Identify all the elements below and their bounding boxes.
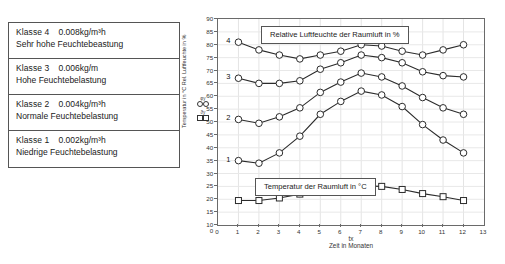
circle-marker [358, 70, 365, 77]
circle-marker [440, 137, 447, 144]
circle-marker [276, 80, 283, 87]
x-tick-mark [299, 224, 300, 227]
humidity-annotation-box: Relative Luftfeuchte der Raumluft in % [261, 26, 409, 44]
class-heading: Klasse 20.004kg/m³h [16, 99, 173, 110]
y-tick-mark [214, 147, 217, 148]
circle-marker [276, 150, 283, 157]
x-tick-label: 9 [394, 228, 408, 235]
x-tick-label: 5 [312, 228, 326, 235]
class-heading: Klasse 30.006kg/m [16, 63, 173, 74]
circle-marker [460, 74, 467, 81]
x-tick-mark [258, 224, 259, 227]
square-marker [235, 198, 241, 204]
circle-marker [337, 59, 344, 66]
square-marker [256, 198, 262, 204]
circle-marker [317, 111, 324, 118]
temperature-annotation-box: Temperatur der Raumluft in °C [255, 178, 376, 196]
series-tag-2: 2 [226, 113, 230, 122]
series-tag-3: 3 [226, 72, 230, 81]
square-marker [420, 191, 426, 197]
y-tick-label: 80 [191, 40, 213, 47]
class-description: Hohe Feuchtebelastung [16, 75, 173, 86]
circle-marker [317, 52, 324, 59]
y-tick-label: 25 [191, 182, 213, 189]
x-tick-mark [319, 224, 320, 227]
circle-marker [378, 54, 385, 61]
y-tick-mark [214, 108, 217, 109]
class-name: Klasse 3 [16, 63, 49, 73]
circle-marker [256, 80, 263, 87]
y-tick-mark [214, 18, 217, 19]
y-tick-label: 40 [191, 143, 213, 150]
y-tick-mark [214, 70, 217, 71]
circle-marker [235, 116, 242, 123]
square-marker [399, 186, 405, 192]
circle-marker [317, 89, 324, 96]
y-tick-label: 20 [191, 195, 213, 202]
circle-marker [297, 78, 304, 85]
circle-marker [419, 94, 426, 101]
series-line [238, 73, 463, 123]
circle-marker [440, 72, 447, 79]
y-tick-mark [214, 160, 217, 161]
x-tick-mark [422, 224, 423, 227]
y-tick-label: 85 [191, 27, 213, 34]
y-tick-label: 45 [191, 130, 213, 137]
x-tick-mark [381, 224, 382, 227]
circle-marker [399, 59, 406, 66]
circle-marker [399, 83, 406, 90]
indoor-climate-chart: Temperatur in °C Rel. Luftfeuchte in % φ… [183, 10, 501, 260]
screenshot-root: Klasse 40.008kg/m³h Sehr hohe Feuchtebea… [0, 0, 505, 264]
y-tick-mark [214, 185, 217, 186]
series-tag-1: 1 [226, 154, 230, 163]
table-row: Klasse 10.002kg/m³h Niedrige Feuchtebela… [9, 131, 179, 167]
x-tick-label: 7 [353, 228, 367, 235]
y-tick-label: 70 [191, 66, 213, 73]
x-tick-label: 10 [415, 228, 429, 235]
class-value: 0.008kg/m³h [58, 27, 105, 37]
x-axis-title: Zeit in Monaten [217, 242, 485, 250]
circle-marker [460, 41, 467, 48]
circle-marker [460, 111, 467, 118]
circle-marker [337, 98, 344, 105]
circle-marker [440, 105, 447, 112]
series-line [238, 55, 463, 83]
x-tick-mark [360, 224, 361, 227]
class-description: Sehr hohe Feuchtebeastung [16, 39, 173, 50]
y-tick-label: 60 [191, 92, 213, 99]
y-tick-mark [214, 44, 217, 45]
circle-marker [440, 47, 447, 54]
y-tick-label: 30 [191, 169, 213, 176]
square-marker [461, 198, 467, 204]
circle-marker [256, 47, 263, 54]
circle-marker [235, 39, 242, 46]
circle-marker [419, 52, 426, 59]
circle-marker [276, 114, 283, 121]
circle-marker [297, 56, 304, 63]
y-tick-label: 55 [191, 105, 213, 112]
y-tick-mark [214, 31, 217, 32]
series-tag-4: 4 [226, 36, 230, 45]
y-tick-mark [214, 211, 217, 212]
circle-marker [235, 75, 242, 82]
circle-marker [358, 88, 365, 95]
class-value: 0.002kg/m³h [58, 135, 105, 145]
y-tick-mark [214, 198, 217, 199]
class-description: Niedrige Feuchtebelastung [16, 147, 173, 158]
y-tick-label: 65 [191, 79, 213, 86]
y-axis-title: Temperatur in °C Rel. Luftfeuchte in % [181, 35, 187, 128]
x-tick-label: 6 [333, 228, 347, 235]
circle-marker [276, 52, 283, 59]
moisture-class-table: Klasse 40.008kg/m³h Sehr hohe Feuchtebea… [8, 22, 180, 168]
circle-marker [235, 157, 242, 164]
class-value: 0.004kg/m³h [58, 99, 105, 109]
x-tick-mark [278, 224, 279, 227]
y-tick-label: 35 [191, 156, 213, 163]
y-tick-label: 90 [191, 15, 213, 22]
circle-marker [317, 66, 324, 73]
x-tick-label: 3 [271, 228, 285, 235]
x-tick-label: 11 [435, 228, 449, 235]
class-value: 0.006kg/m [58, 63, 98, 73]
x-tick-label: 2 [251, 228, 265, 235]
circle-marker [399, 103, 406, 110]
